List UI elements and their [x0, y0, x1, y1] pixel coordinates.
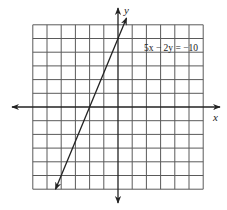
equation-label: 5x − 2y = −10 — [144, 43, 198, 53]
x-axis-label: x — [212, 111, 218, 123]
coordinate-graph: y x 5x − 2y = −10 — [0, 0, 227, 210]
y-axis-label: y — [123, 4, 129, 16]
equation-line — [56, 18, 127, 189]
